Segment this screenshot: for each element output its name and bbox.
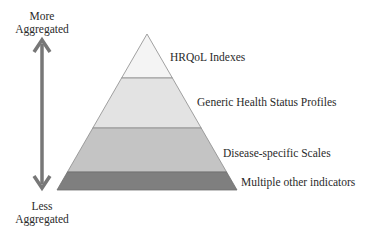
aggregation-arrow-icon <box>34 40 50 188</box>
pyramid-diagram: More Aggregated Less Aggregated HRQoL In… <box>0 0 366 237</box>
tier-disease-specific-scales <box>67 128 226 172</box>
less-aggregated-line-1: Less <box>2 200 82 213</box>
tier-multiple-other-indicators <box>57 172 237 190</box>
more-aggregated-line-1: More <box>2 10 82 23</box>
tier-label-hrqol-indexes: HRQoL Indexes <box>170 51 245 64</box>
tier-label-generic-health-status-profiles: Generic Health Status Profiles <box>197 96 337 109</box>
tier-label-multiple-other-indicators: Multiple other indicators <box>241 176 355 189</box>
less-aggregated-label: Less Aggregated <box>2 200 82 226</box>
more-aggregated-label: More Aggregated <box>2 10 82 36</box>
more-aggregated-line-2: Aggregated <box>2 23 82 36</box>
tier-hrqol-indexes <box>122 34 173 78</box>
tier-generic-health-status-profiles <box>93 78 201 128</box>
tier-label-disease-specific-scales: Disease-specific Scales <box>223 147 331 160</box>
less-aggregated-line-2: Aggregated <box>2 213 82 226</box>
